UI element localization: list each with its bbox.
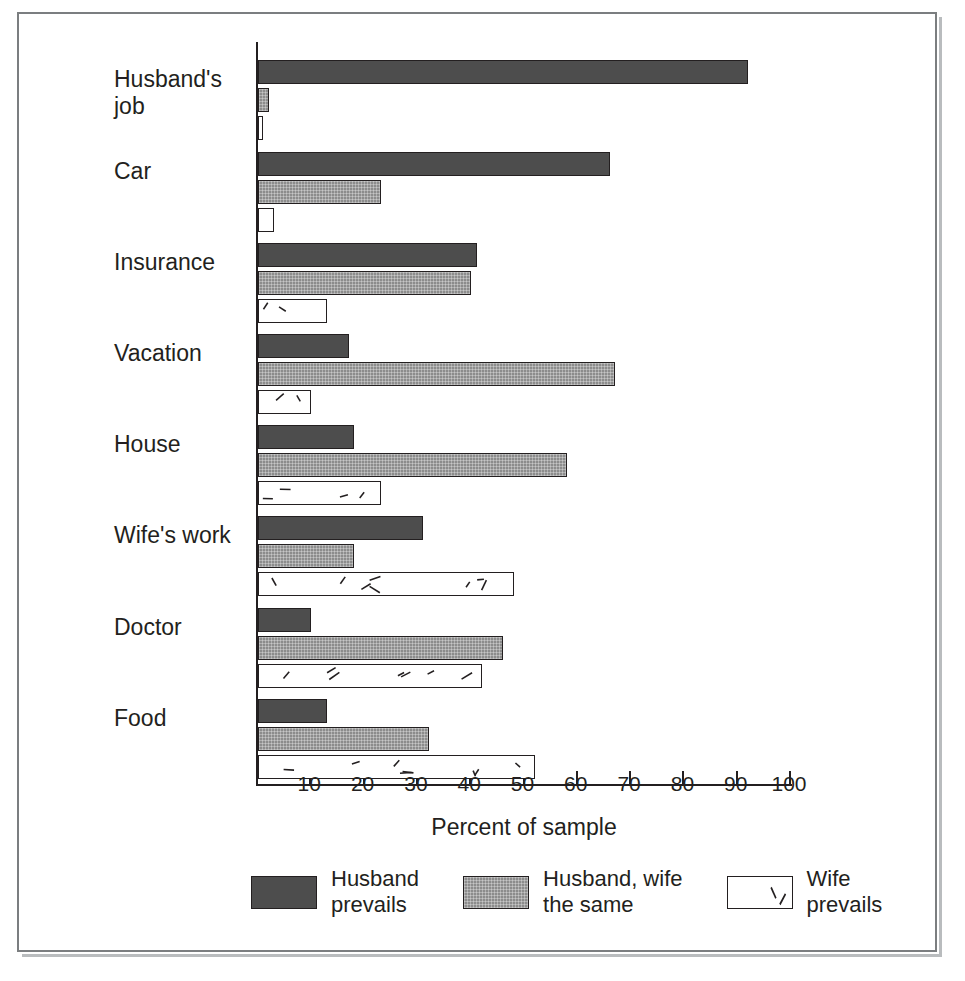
x-tick-label: 90 [724,772,747,796]
bar-group [258,334,794,418]
legend-item[interactable]: Husband prevails [251,866,419,918]
legend-label: Wife prevails [807,866,883,918]
category-label: Insurance [114,249,215,276]
bar-2 [258,208,274,232]
bar-2 [258,299,327,323]
legend-item[interactable]: Wife prevails [727,866,883,918]
bar-0 [258,425,354,449]
x-tick-label: 60 [564,772,587,796]
medium-gray-swatch [463,876,529,909]
bar-1 [258,453,567,477]
x-tick-label: 70 [617,772,640,796]
bar-2 [258,116,263,140]
bar-group [258,699,794,783]
bar-0 [258,334,349,358]
bar-0 [258,608,311,632]
bar-0 [258,699,327,723]
bar-group [258,516,794,600]
category-label: Wife's work [114,522,231,549]
figure-frame: Husband's jobCarInsuranceVacationHouseWi… [17,12,937,952]
bar-0 [258,60,748,84]
bar-group [258,152,794,236]
x-tick-label: 100 [771,772,806,796]
category-label: Doctor [114,614,182,641]
category-label: Husband's job [114,66,222,120]
bar-2 [258,390,311,414]
x-tick-label: 30 [404,772,427,796]
chart-page: Husband's jobCarInsuranceVacationHouseWi… [0,0,965,981]
bar-2 [258,481,381,505]
bar-1 [258,636,503,660]
bar-group [258,425,794,509]
bar-1 [258,88,269,112]
white-dash-swatch [727,876,793,909]
category-label: Vacation [114,340,202,367]
bar-0 [258,243,477,267]
chart-legend: Husband prevailsHusband, wife the sameWi… [251,866,882,918]
dark-gray-swatch [251,876,317,909]
x-tick-label: 50 [511,772,534,796]
bar-1 [258,544,354,568]
bar-0 [258,152,610,176]
x-axis-title: Percent of sample [256,814,792,841]
bar-group [258,243,794,327]
category-label: House [114,431,180,458]
legend-label: Husband, wife the same [543,866,682,918]
bar-1 [258,180,381,204]
bar-2 [258,664,482,688]
plot-area [256,42,816,786]
legend-item[interactable]: Husband, wife the same [463,866,682,918]
bar-2 [258,572,514,596]
bar-group [258,608,794,692]
x-tick-label: 10 [298,772,321,796]
category-label: Food [114,705,166,732]
x-tick-label: 40 [458,772,481,796]
bar-1 [258,727,429,751]
bar-1 [258,271,471,295]
bar-group [258,60,794,144]
x-tick-label: 80 [671,772,694,796]
bar-1 [258,362,615,386]
legend-label: Husband prevails [331,866,419,918]
x-tick-label: 20 [351,772,374,796]
bar-0 [258,516,423,540]
bar-chart: Husband's jobCarInsuranceVacationHouseWi… [19,14,939,954]
category-label: Car [114,158,151,185]
